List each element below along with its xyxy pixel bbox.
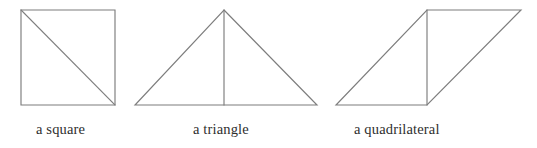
shape-square xyxy=(21,10,115,105)
quadrilateral-outline xyxy=(336,10,521,105)
shape-quadrilateral xyxy=(336,10,521,105)
caption-triangle: a triangle xyxy=(193,120,249,138)
square-diagonal-line xyxy=(21,10,115,105)
shape-triangle xyxy=(135,10,317,105)
caption-row: a square a triangle a quadrilateral xyxy=(0,120,537,142)
caption-square: a square xyxy=(36,120,85,138)
triangle-outline xyxy=(135,10,317,105)
geometry-figure: a square a triangle a quadrilateral xyxy=(0,0,537,148)
caption-quadrilateral: a quadrilateral xyxy=(354,120,440,138)
